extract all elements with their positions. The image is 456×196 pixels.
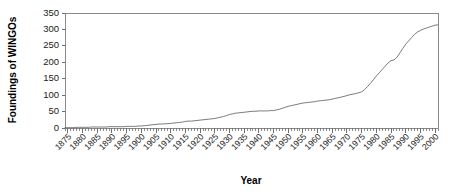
y-tick-label-200: 200 [43,56,59,67]
y-tick-label-50: 50 [48,105,59,116]
y-axis-tick-labels: 050100150200250300350 [43,7,59,133]
plot-area-background [65,13,438,128]
y-tick-label-300: 300 [43,23,59,34]
x-tick-label-2000: 2000 [420,131,441,152]
y-tick-label-100: 100 [43,89,59,100]
y-axis-title: Foundings of WINGOs [7,16,18,123]
y-tick-label-350: 350 [43,7,59,18]
x-axis-title: Year [240,175,261,186]
y-tick-label-150: 150 [43,72,59,83]
y-tick-label-250: 250 [43,39,59,50]
chart-figure: 050100150200250300350 187518801885189018… [0,0,456,196]
y-tick-label-0: 0 [54,122,59,133]
x-axis-tick-labels: 1875188018851890189519001905191019151920… [53,131,441,152]
line-chart: 050100150200250300350 187518801885189018… [0,0,456,196]
